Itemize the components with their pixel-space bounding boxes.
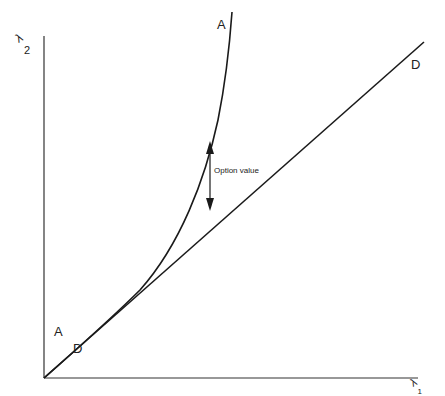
y-axis-symbol: λ <box>13 31 24 44</box>
arrow-head-down-icon <box>206 198 214 211</box>
line-d-top-label: D <box>411 58 420 71</box>
line-d-bottom-label: D <box>73 342 82 355</box>
y-axis-subscript: 2 <box>24 44 30 56</box>
x-axis-label: λ1 <box>411 375 421 388</box>
curve-a <box>44 12 232 378</box>
curve-a-bottom-label: A <box>54 325 63 338</box>
curve-a-top-label: A <box>217 18 226 31</box>
y-axis-label: λ2 <box>16 31 28 44</box>
x-axis-subscript: 1 <box>418 387 422 396</box>
option-value-label: Option value <box>214 167 259 175</box>
